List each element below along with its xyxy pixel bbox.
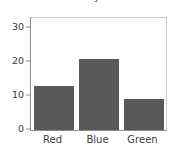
bar-blue	[79, 59, 119, 130]
bar-red	[34, 86, 74, 130]
y-axis: 0102030	[0, 17, 30, 131]
y-tick-label: 30	[12, 22, 24, 32]
y-tick-label: 20	[12, 56, 24, 66]
plot-area	[30, 17, 167, 131]
y-tick-label: 10	[12, 90, 24, 100]
bar-chart-figure: Counts by Color 0102030 RedBlueGreen	[0, 0, 180, 155]
x-tick-label: Blue	[86, 134, 108, 145]
x-tick-label: Green	[127, 134, 157, 145]
bar-green	[124, 99, 164, 130]
bars-layer	[31, 18, 166, 130]
chart-title: Counts by Color	[0, 0, 180, 2]
y-tick-label: 0	[18, 124, 24, 134]
x-tick-label: Red	[43, 134, 62, 145]
x-axis: RedBlueGreen	[30, 132, 167, 152]
